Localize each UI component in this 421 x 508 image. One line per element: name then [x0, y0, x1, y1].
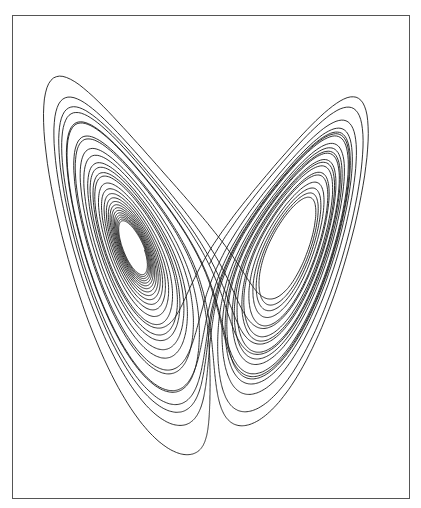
lorenz-attractor-plot: [0, 0, 421, 508]
trajectory-line: [44, 76, 369, 455]
